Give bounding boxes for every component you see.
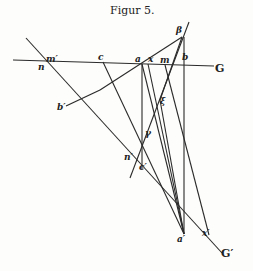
label-n-prime: n′: [124, 152, 134, 162]
label-gamma: γ: [145, 128, 152, 138]
line-x-a-prime: [148, 64, 184, 234]
label-a: a: [135, 54, 141, 64]
label-a-prime: a′: [177, 234, 186, 244]
label-c: c: [98, 52, 104, 62]
label-m: m: [160, 55, 170, 65]
line-xi-a-prime: [160, 100, 184, 234]
line-beta-xi: [160, 37, 182, 100]
label-n: n: [38, 62, 45, 72]
line-c-a-prime: [103, 62, 184, 234]
label-c-prime: c′: [139, 162, 147, 172]
line-m-x-prime: [165, 65, 209, 235]
label-x: x: [147, 54, 154, 64]
label-xi: ξ: [160, 96, 166, 106]
label-G: G: [215, 62, 224, 75]
line-G-prime: [26, 38, 222, 253]
figure-title: Figur 5.: [110, 4, 155, 17]
label-m-prime: m′: [46, 54, 59, 64]
label-beta: β: [175, 25, 182, 35]
figure-5-diagram: Figur 5. n m′ c a x m b β G b′ ξ γ n′ c′…: [0, 0, 253, 271]
label-G-prime: G′: [221, 247, 233, 260]
label-b-prime: b′: [57, 102, 66, 112]
label-x-prime: x′: [201, 228, 210, 238]
label-b: b: [182, 52, 188, 62]
line-b-prime-segment: [66, 90, 100, 106]
